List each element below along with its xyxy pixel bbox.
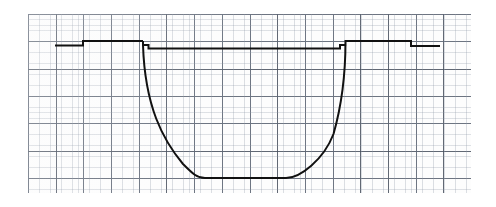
chart-image <box>0 0 496 207</box>
graph-paper-grid <box>28 14 471 193</box>
